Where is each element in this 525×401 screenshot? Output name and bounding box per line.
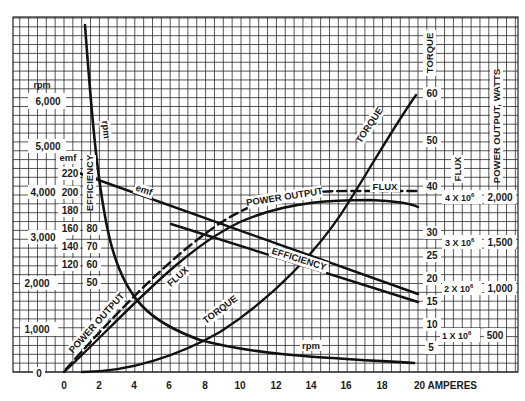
torque-tick-30: 30 — [426, 227, 438, 238]
torque-tick-60: 60 — [426, 88, 438, 99]
emf-tick-160: 160 — [62, 223, 79, 234]
rpm-tick-4000: 4,000 — [30, 187, 55, 198]
flux-axis-label: FLUX — [452, 156, 463, 181]
flux-tick-3: 3 X 106 — [445, 237, 475, 248]
eff-tick-50: 50 — [86, 277, 98, 288]
flux-curve-label-top: FLUX — [373, 181, 398, 192]
eff-tick-80: 80 — [86, 223, 98, 234]
flux-tick-1: 1 X 106 — [442, 330, 472, 341]
eff-tick-60: 60 — [86, 259, 98, 270]
eff-tick-70: 70 — [86, 241, 98, 252]
torque-tick-25: 25 — [426, 250, 438, 261]
x-tick-2: 2 — [96, 380, 102, 391]
emf-tick-120: 120 — [62, 259, 79, 270]
rpm-curve-label-low: rpm — [302, 340, 320, 351]
x-tick-8: 8 — [202, 380, 208, 391]
torque-curve-label-mid: TORQUE — [200, 293, 239, 326]
x-tick-0: 0 — [61, 380, 67, 391]
torque-tick-15: 15 — [426, 296, 438, 307]
emf-tick-140: 140 — [62, 241, 79, 252]
torque-tick-20: 20 — [426, 273, 438, 284]
torque-tick-50: 50 — [426, 135, 438, 146]
rpm-tick-2000: 2,000 — [24, 278, 49, 289]
rpm-axis-label: rpm — [33, 80, 50, 90]
flux-axis: FLUX 4 X 106 3 X 106 2 X 106 1 X 106 — [440, 155, 482, 342]
x-tick-12: 12 — [270, 380, 282, 391]
emf-axis: emf 220 200 180 160 140 120 — [56, 151, 80, 271]
torque-tick-10: 10 — [426, 319, 438, 330]
power-tick-500: 500 — [487, 330, 504, 341]
power-tick-2000: 2,000 — [487, 192, 512, 203]
emf-axis-label: emf — [60, 152, 78, 163]
flux-curve — [66, 191, 420, 369]
motor-characteristics-chart: rpm 6,000 5,000 4,000 3,000 2,000 1,000 … — [0, 0, 525, 401]
flux-tick-4: 4 X 106 — [445, 192, 475, 203]
rpm-tick-3000: 3,000 — [30, 232, 55, 243]
rpm-tick-0: 0 — [36, 368, 42, 379]
x-tick-14: 14 — [305, 380, 317, 391]
torque-curve-label-top: TORQUE — [353, 105, 385, 145]
rpm-tick-1000: 1,000 — [24, 324, 49, 335]
rpm-tick-5000: 5,000 — [35, 141, 60, 152]
torque-tick-5: 5 — [428, 342, 434, 353]
emf-tick-200: 200 — [62, 187, 79, 198]
efficiency-axis-label: EFFICIENCY — [84, 154, 95, 211]
emf-tick-180: 180 — [62, 205, 79, 216]
emf-tick-220: 220 — [62, 168, 79, 179]
power-axis-label: POWER OUTPUT, WATTS — [491, 69, 502, 183]
x-tick-10: 10 — [234, 380, 246, 391]
x-axis-label: 20 AMPERES — [414, 380, 477, 391]
flux-tick-2: 2 X 106 — [444, 283, 474, 294]
power-tick-1000: 1,000 — [487, 283, 512, 294]
torque-tick-40: 40 — [426, 181, 438, 192]
x-tick-4: 4 — [131, 380, 137, 391]
rpm-tick-6000: 6,000 — [35, 96, 60, 107]
power-tick-1500: 1,500 — [487, 237, 512, 248]
x-tick-6: 6 — [166, 380, 172, 391]
rpm-curve-label: rpm — [100, 120, 113, 139]
x-tick-16: 16 — [340, 380, 352, 391]
torque-axis-label: TORQUE — [424, 33, 435, 73]
x-axis-ticks: 0 2 4 6 8 10 12 14 16 18 20 AMPERES — [61, 380, 477, 391]
x-tick-18: 18 — [376, 380, 388, 391]
torque-axis: TORQUE 60 50 40 30 25 20 15 10 5 — [423, 30, 441, 354]
